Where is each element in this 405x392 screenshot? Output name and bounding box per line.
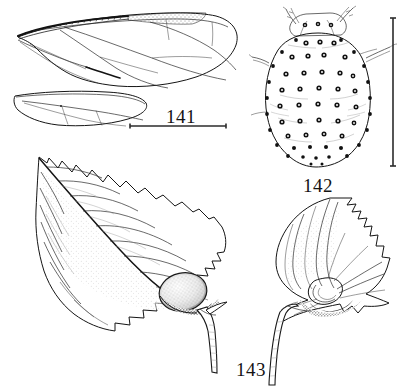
figure-label-141: 141 xyxy=(166,106,196,128)
pore xyxy=(342,54,347,59)
pore xyxy=(327,155,331,159)
pore xyxy=(340,134,345,139)
pore xyxy=(279,87,284,92)
scale-bar-142 xyxy=(390,18,396,166)
pore xyxy=(297,86,302,91)
hindwing-vein-node xyxy=(60,105,62,107)
forewing xyxy=(18,13,237,88)
pore xyxy=(316,22,321,27)
vein-dark-segment xyxy=(86,67,120,78)
leg-right xyxy=(360,44,397,62)
pore xyxy=(303,23,308,28)
pore xyxy=(354,105,359,110)
cavity-inner-2 xyxy=(318,288,336,299)
pore xyxy=(286,134,291,139)
pore xyxy=(310,163,313,166)
pore xyxy=(353,89,358,94)
hindwing xyxy=(14,91,147,126)
pore xyxy=(283,71,288,76)
antenna-left xyxy=(283,7,299,24)
pore xyxy=(331,40,336,45)
vein-Cu xyxy=(60,30,168,88)
figure-143-leaves xyxy=(36,157,390,385)
pore xyxy=(319,69,324,74)
forewing-outline xyxy=(18,13,237,87)
rolled-leaf-petiole xyxy=(269,302,311,385)
pore xyxy=(301,155,305,159)
leg-left xyxy=(249,55,269,67)
figure-label-142: 142 xyxy=(303,175,333,197)
pore xyxy=(301,70,306,75)
pore xyxy=(277,103,282,108)
pore xyxy=(303,40,308,45)
pore xyxy=(339,146,343,150)
hindwing-crossvein-1 xyxy=(62,107,68,125)
pore xyxy=(305,53,310,58)
head-suture-2 xyxy=(327,20,334,35)
pore xyxy=(316,85,321,90)
pore xyxy=(321,163,324,166)
antenna-right xyxy=(337,6,356,22)
hindwing-crossvein-2 xyxy=(96,111,102,126)
pore xyxy=(279,119,284,124)
petiole-outline xyxy=(197,307,217,373)
pore xyxy=(351,74,356,79)
plate-artwork xyxy=(0,0,405,392)
large-leaf xyxy=(36,157,227,373)
hindwing-vein-R xyxy=(22,101,143,120)
rolled-leaf xyxy=(269,198,390,385)
large-leaf-petiole xyxy=(197,302,227,373)
pore xyxy=(316,117,321,122)
pore xyxy=(324,145,328,149)
pore xyxy=(308,145,312,149)
pore xyxy=(322,132,327,137)
vein-Cu-branch xyxy=(100,57,158,73)
pore xyxy=(304,133,309,138)
pore xyxy=(317,39,322,44)
pore xyxy=(337,70,342,75)
figure-141-wings xyxy=(14,13,237,129)
pore xyxy=(321,52,326,57)
pore xyxy=(297,118,302,123)
crossvein-2 xyxy=(212,22,213,46)
pore xyxy=(315,101,320,106)
marginal-pores xyxy=(265,38,372,158)
pore xyxy=(292,146,296,150)
vein-M-fork-upper xyxy=(152,57,212,59)
illustration-plate: 141 142 143 xyxy=(0,0,405,392)
pore xyxy=(334,102,339,107)
pore xyxy=(352,121,357,126)
vein-A xyxy=(30,44,86,69)
pore xyxy=(335,118,340,123)
pore xyxy=(296,102,301,107)
figure-142-nymph xyxy=(249,6,397,167)
figure-label-143: 143 xyxy=(236,359,266,381)
vein-M xyxy=(64,27,226,80)
pore xyxy=(329,23,334,28)
pore xyxy=(335,86,340,91)
pore xyxy=(314,156,318,160)
pore xyxy=(289,54,294,59)
